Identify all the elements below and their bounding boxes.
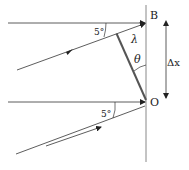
angle-arc-top (104, 23, 106, 37)
top-slanted-ray (17, 24, 145, 71)
bottom-slanted-ray (16, 106, 145, 154)
diagram: B O 5° 5° λ θ Δx (0, 0, 189, 170)
label-point-b: B (150, 9, 158, 22)
label-angle-top: 5° (94, 27, 104, 37)
label-theta: θ (134, 53, 141, 66)
direction-arrow (46, 127, 101, 146)
label-lambda: λ (130, 33, 138, 46)
label-angle-bottom: 5° (101, 109, 111, 119)
label-delta-x: Δx (167, 57, 180, 68)
label-point-o: O (150, 96, 159, 109)
angle-arc-bottom (113, 102, 115, 118)
top-slanted-ray-arrow-icon (66, 49, 73, 55)
